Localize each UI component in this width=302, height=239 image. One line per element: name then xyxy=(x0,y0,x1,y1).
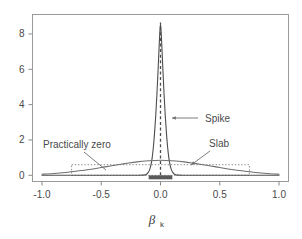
practically-zero-annotation-label: Practically zero xyxy=(43,139,111,150)
y-tick-label: 2 xyxy=(19,134,25,145)
x-tick-label: -0.5 xyxy=(93,189,111,200)
chart-background xyxy=(0,0,302,239)
x-tick-label: -1.0 xyxy=(33,189,51,200)
y-tick-label: 6 xyxy=(19,64,25,75)
y-tick-label: 4 xyxy=(19,99,25,110)
spike-and-slab-chart: -1.0-0.50.00.51.0 02468 Spike Slab Pract… xyxy=(0,0,302,239)
chart-canvas: -1.0-0.50.00.51.0 02468 Spike Slab Pract… xyxy=(0,0,302,239)
x-tick-label: 0.5 xyxy=(213,189,227,200)
y-tick-label: 8 xyxy=(19,28,25,39)
spike-annotation-label: Spike xyxy=(205,113,230,124)
slab-annotation-label: Slab xyxy=(209,138,229,149)
y-tick-label: 0 xyxy=(19,170,25,181)
x-tick-label: 1.0 xyxy=(272,189,286,200)
x-axis-label-beta: β xyxy=(148,212,156,227)
x-tick-label: 0.0 xyxy=(154,189,168,200)
